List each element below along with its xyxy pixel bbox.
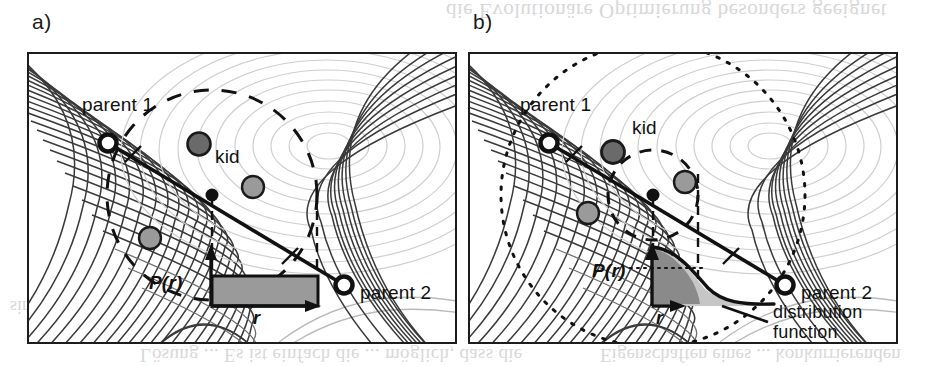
kid-marker [139,227,161,249]
panel-label-b: b) [473,10,493,34]
radius-axis-label: r [656,308,663,329]
panel-label-a: a) [32,10,52,34]
distribution-label-leader-line [722,306,768,322]
probability-axis-label: P(r) [592,260,626,282]
parent2-label: parent 2 [360,282,431,304]
radius-axis-label: r [253,308,260,329]
parent2-marker [336,277,353,294]
parent1-marker [100,135,117,152]
distribution-function-label-line2: function [773,322,838,343]
figure-root: die Evolutionäre Optimierung besonders g… [0,0,928,366]
parent1-marker [541,135,558,152]
kid-marker [188,133,211,156]
panel-b: parent 1 kid parent 2 P(r) r distributio… [468,52,898,344]
distribution-function-label-line1: distribution [773,302,862,323]
parent2-label: parent 2 [801,282,872,304]
panel-a: parent 1 kid parent 2 P(r) r [27,52,457,344]
bleed-through-text-top: die Evolutionäre Optimierung besonders g… [446,0,887,23]
kid-marker [602,141,625,164]
kid-marker [674,171,696,193]
kid-marker [242,176,264,198]
kid-label: kid [215,146,240,168]
bleed-through-text-bottom: Lösung ... Es ist einfach die ... möglic… [140,344,523,366]
midpoint-marker [206,189,219,202]
parent2-marker [777,277,794,294]
parent1-label: parent 1 [82,94,153,116]
kid-marker [577,202,599,224]
kid-label: kid [632,117,657,139]
parent1-label: parent 1 [520,94,591,116]
uniform-distribution-rectangle [212,276,318,306]
probability-axis-label: P(r) [149,272,183,294]
bleed-through-text-bottom-right: Eigenschaften eines ... konkurrierenden [600,344,901,366]
midpoint-marker [647,189,660,202]
